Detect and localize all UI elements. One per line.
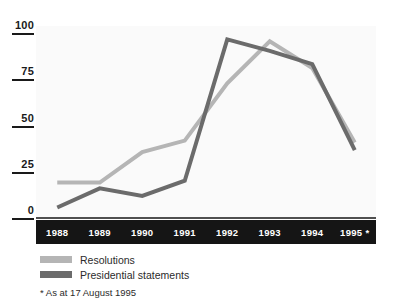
x-axis-tick-label: 1994 <box>291 227 334 238</box>
legend-item-label: Presidential statements <box>80 269 189 281</box>
legend-item-presidential-statements: Presidential statements <box>40 267 370 282</box>
x-axis-tick-label: 1990 <box>121 227 164 238</box>
legend-swatch-icon <box>40 256 72 263</box>
chart-plot-svg <box>0 0 402 245</box>
legend-item-resolutions: Resolutions <box>40 252 370 267</box>
x-axis-tick-label: 1992 <box>206 227 249 238</box>
legend-item-label: Resolutions <box>80 254 135 266</box>
x-axis-tick-label: 1988 <box>36 227 79 238</box>
x-axis-tick-label: 1995 * <box>334 227 377 238</box>
chart-footnote: * As at 17 August 1995 <box>40 287 136 298</box>
line-chart-figure: 100 75 50 25 0 1988198919901991199219931… <box>0 0 402 305</box>
legend-swatch-icon <box>40 271 72 278</box>
chart-legend: Resolutions Presidential statements <box>40 252 370 282</box>
x-axis-tick-label: 1993 <box>249 227 292 238</box>
x-axis-tick-label: 1989 <box>79 227 122 238</box>
x-axis-tick-label: 1991 <box>164 227 207 238</box>
plot-area: 100 75 50 25 0 <box>0 0 402 245</box>
x-axis-band: 19881989199019911992199319941995 * <box>36 220 376 244</box>
